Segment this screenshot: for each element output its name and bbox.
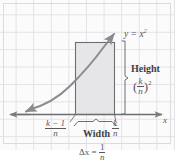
curve-equation-text: y = x <box>124 29 144 39</box>
riemann-sum-figure: y = x2 Height (kn)2 Width Δx = 1n k − 1n… <box>0 0 175 167</box>
width-denominator: n <box>99 153 106 162</box>
right-tick-fraction: kn <box>112 119 119 139</box>
left-tick-denominator: n <box>45 129 66 138</box>
width-fraction: 1n <box>99 143 106 163</box>
height-label: Height <box>131 64 160 74</box>
curve-equation-label: y = x2 <box>124 28 147 40</box>
height-bracket <box>122 41 129 114</box>
x-axis-label: x <box>163 116 167 125</box>
right-tick-denominator: n <box>112 129 119 138</box>
width-equation-label: Δx = 1n <box>79 143 105 163</box>
curve-equation-exponent: 2 <box>144 27 147 34</box>
width-equation-lhs: Δx = <box>79 147 97 157</box>
left-tick-leader <box>70 115 76 123</box>
height-exponent: 2 <box>148 79 151 86</box>
width-label: Width <box>83 129 110 139</box>
left-tick-label: k − 1n <box>45 119 66 139</box>
right-tick-label: kn <box>112 119 119 139</box>
riemann-rectangle <box>76 43 115 115</box>
width-brace <box>74 119 116 126</box>
height-value-label: (kn)2 <box>133 77 151 97</box>
left-tick-fraction: k − 1n <box>45 119 66 139</box>
